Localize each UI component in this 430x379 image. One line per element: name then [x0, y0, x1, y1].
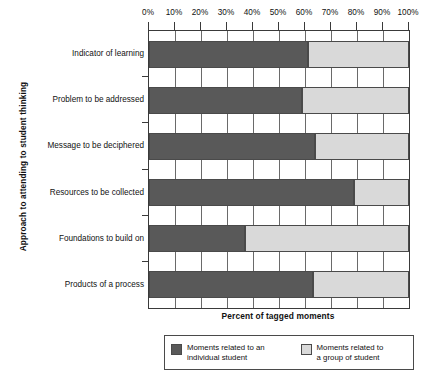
legend-swatch-dark [171, 344, 182, 355]
category-label: Message to be deciphered [34, 141, 144, 150]
x-axis-tick-label: 100% [398, 8, 419, 17]
bar-segment [315, 133, 409, 160]
x-axis-tick-label: 10% [166, 8, 182, 17]
x-axis-tick-label: 80% [348, 8, 364, 17]
x-axis-tick [304, 22, 305, 30]
bar-row [149, 87, 409, 114]
bar-segment [149, 41, 308, 68]
x-axis-tick-labels: 0%10%20%30%40%50%60%70%80%90%100% [148, 8, 408, 22]
x-axis-tick-label: 70% [322, 8, 338, 17]
legend-entry: Moments related to an individual student [171, 343, 301, 362]
y-axis-title: Approach to attending to student thinkin… [19, 42, 28, 292]
x-axis-title: Percent of tagged moments [148, 311, 408, 321]
x-axis-tick [174, 22, 175, 30]
x-axis-tick [356, 22, 357, 30]
legend-swatch-light [301, 344, 312, 355]
bar-row [149, 225, 409, 252]
x-axis-tick-label: 0% [142, 8, 154, 17]
legend-label: Moments related to a group of student [317, 343, 384, 362]
x-axis-tick [226, 22, 227, 30]
x-axis-tick [278, 22, 279, 30]
bar-segment [308, 41, 409, 68]
bar-segment [313, 271, 409, 298]
x-axis-tick [408, 22, 409, 30]
category-axis-labels: Indicator of learningProblem to be addre… [34, 30, 144, 307]
x-axis-tick-label: 60% [296, 8, 312, 17]
bar-row [149, 41, 409, 68]
bar-segment [149, 225, 245, 252]
chart-legend: Moments related to an individual student… [164, 335, 414, 370]
category-label: Resources to be collected [34, 187, 144, 196]
x-axis-tick-label: 90% [374, 8, 390, 17]
bar-segment [354, 179, 409, 206]
bar-segment [302, 87, 409, 114]
legend-entry: Moments related to a group of student [301, 343, 407, 362]
x-axis-tick [382, 22, 383, 30]
category-label: Problem to be addressed [34, 95, 144, 104]
x-axis-tick [330, 22, 331, 30]
bar-row [149, 133, 409, 160]
category-label: Foundations to build on [34, 233, 144, 242]
bar-row [149, 179, 409, 206]
x-axis-tick-label: 40% [244, 8, 260, 17]
bar-segment [149, 87, 302, 114]
category-label: Indicator of learning [34, 49, 144, 58]
x-axis-tick-label: 50% [270, 8, 286, 17]
bar-series-container [149, 31, 409, 308]
x-axis-tick [200, 22, 201, 30]
stacked-bar-chart-figure: Approach to attending to student thinkin… [0, 0, 430, 379]
plot-area [148, 30, 410, 309]
x-axis-tick [148, 22, 149, 30]
legend-label: Moments related to an individual student [187, 343, 265, 362]
x-axis-tick-marks [148, 22, 408, 30]
x-axis-tick-label: 20% [192, 8, 208, 17]
bar-segment [245, 225, 409, 252]
bar-segment [149, 133, 315, 160]
x-axis-tick [252, 22, 253, 30]
bar-row [149, 271, 409, 298]
bar-segment [149, 271, 313, 298]
bar-segment [149, 179, 354, 206]
category-label: Products of a process [34, 279, 144, 288]
x-axis-tick-label: 30% [218, 8, 234, 17]
